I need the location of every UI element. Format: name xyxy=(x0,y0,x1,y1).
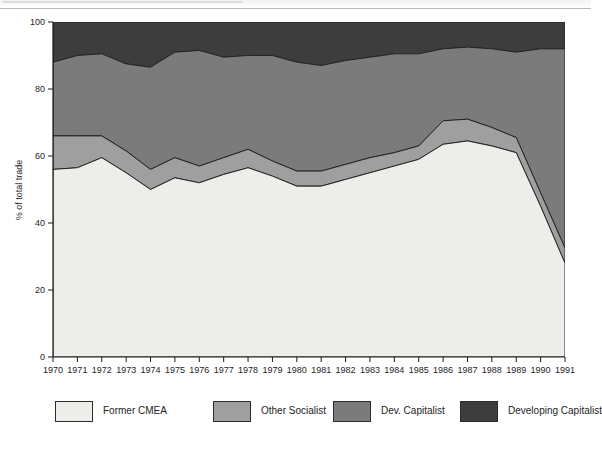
x-tick-label: 1990 xyxy=(531,365,551,375)
legend-item-other-socialist: Other Socialist xyxy=(213,398,326,424)
x-tick-label: 1985 xyxy=(409,365,429,375)
x-tick-label: 1978 xyxy=(238,365,258,375)
y-tick-label: 100 xyxy=(30,17,45,27)
x-tick-label: 1979 xyxy=(262,365,282,375)
x-tick-label: 1975 xyxy=(165,365,185,375)
x-tick-label: 1971 xyxy=(67,365,87,375)
y-tick-label: 20 xyxy=(35,285,45,295)
x-tick-label: 1989 xyxy=(506,365,526,375)
x-tick-label: 1980 xyxy=(287,365,307,375)
legend-swatch xyxy=(55,401,93,422)
x-tick-label: 1983 xyxy=(360,365,380,375)
x-tick-label: 1988 xyxy=(482,365,502,375)
x-tick-label: 1991 xyxy=(555,365,575,375)
x-tick-label: 1973 xyxy=(116,365,136,375)
x-tick-label: 1970 xyxy=(43,365,63,375)
legend-swatch xyxy=(460,401,498,422)
x-tick-label: 1984 xyxy=(384,365,404,375)
y-axis-label: % of total trade xyxy=(14,160,24,221)
x-tick-label: 1976 xyxy=(189,365,209,375)
legend-item-former-cmea: Former CMEA xyxy=(55,398,167,424)
y-tick-label: 0 xyxy=(40,352,45,362)
x-tick-label: 1974 xyxy=(141,365,161,375)
y-tick-label: 60 xyxy=(35,151,45,161)
legend-label: Developing Capitalist xyxy=(508,405,602,417)
y-tick-label: 80 xyxy=(35,84,45,94)
chart-area-bands xyxy=(53,22,565,357)
x-tick-label: 1981 xyxy=(311,365,331,375)
legend-swatch xyxy=(213,401,251,422)
x-tick-label: 1977 xyxy=(214,365,234,375)
legend-label: Other Socialist xyxy=(261,405,326,417)
x-axis-ticks: 1970197119721973197419751976197719781979… xyxy=(43,357,575,375)
y-tick-label: 40 xyxy=(35,218,45,228)
x-tick-label: 1972 xyxy=(92,365,112,375)
legend-item-dev-capitalist: Dev. Capitalist xyxy=(333,398,445,424)
legend-label: Former CMEA xyxy=(103,405,167,417)
legend-item-developing-capitalist: Developing Capitalist xyxy=(460,398,602,424)
x-tick-label: 1987 xyxy=(457,365,477,375)
x-tick-label: 1986 xyxy=(433,365,453,375)
chart-legend: Former CMEAOther SocialistDev. Capitalis… xyxy=(0,398,591,432)
y-axis-ticks: 020406080100 xyxy=(30,17,53,362)
x-tick-label: 1982 xyxy=(336,365,356,375)
legend-swatch xyxy=(333,401,371,422)
legend-label: Dev. Capitalist xyxy=(381,405,445,417)
